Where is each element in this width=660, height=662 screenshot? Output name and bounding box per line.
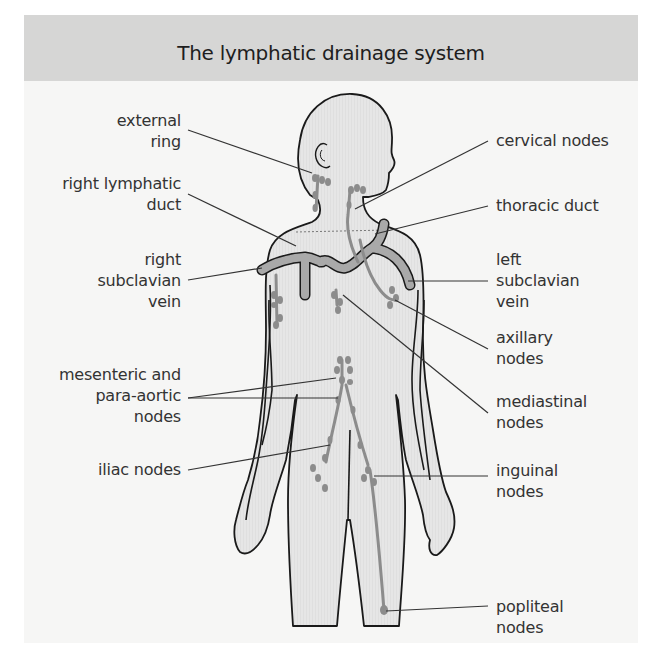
label-external-ring: external ring (117, 110, 181, 152)
label-popliteal-nodes: popliteal nodes (496, 596, 564, 638)
label-thoracic-duct: thoracic duct (496, 195, 598, 216)
label-right-lymphatic-duct: right lymphatic duct (62, 173, 181, 215)
label-mesenteric-para-aortic-nodes: mesenteric and para-aortic nodes (59, 364, 181, 427)
label-axillary-nodes: axillary nodes (496, 327, 553, 369)
label-left-subclavian-vein: left subclavian vein (496, 249, 580, 312)
human-body-figure (0, 0, 660, 662)
label-right-subclavian-vein: right subclavian vein (97, 249, 181, 312)
label-cervical-nodes: cervical nodes (496, 130, 609, 151)
label-iliac-nodes: iliac nodes (98, 459, 181, 480)
label-mediastinal-nodes: mediastinal nodes (496, 391, 587, 433)
label-inguinal-nodes: inguinal nodes (496, 460, 558, 502)
